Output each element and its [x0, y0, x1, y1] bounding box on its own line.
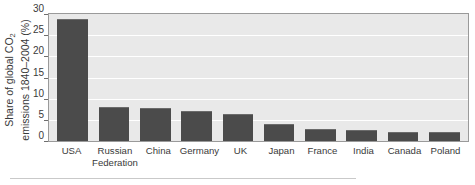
bar-slot — [217, 14, 258, 141]
y-axis-tick-mark — [44, 56, 48, 57]
bar-slot — [382, 14, 423, 141]
y-axis-tick-label: 25 — [27, 25, 44, 35]
bar-slot — [135, 14, 176, 141]
bar-slot — [424, 14, 465, 141]
x-axis-tick-label-line: India — [343, 145, 384, 157]
x-axis-tick-label: UK — [220, 145, 261, 168]
y-axis-tick-label: 15 — [27, 68, 44, 78]
x-axis-tick-label-line: France — [302, 145, 343, 157]
x-axis-tick-label: Poland — [425, 145, 466, 168]
bar — [264, 124, 295, 141]
x-axis-tick-label-line: Poland — [425, 145, 466, 157]
bar — [181, 111, 212, 141]
bar-slot — [93, 14, 134, 141]
bar — [140, 108, 171, 141]
bar — [305, 129, 336, 141]
bar — [99, 107, 130, 141]
subscript-two: 2 — [7, 33, 16, 37]
x-axis-tick-label-line: UK — [220, 145, 261, 157]
x-axis-tick-label-line: Russian — [92, 145, 138, 157]
plot-area — [48, 13, 469, 142]
y-axis-tick-mark — [44, 35, 48, 36]
bar — [388, 132, 419, 141]
bar-slot — [176, 14, 217, 141]
x-axis-tick-label-line: China — [138, 145, 179, 157]
bar-slot — [300, 14, 341, 141]
y-axis-tick-mark — [44, 141, 48, 142]
x-axis-tick-label: Japan — [261, 145, 302, 168]
x-axis-tick-label: India — [343, 145, 384, 168]
bar-slot — [52, 14, 93, 141]
y-axis-tick-label: 10 — [27, 89, 44, 99]
x-axis-tick-label-line: Germany — [179, 145, 220, 157]
x-axis-tick-label-line: Canada — [384, 145, 425, 157]
bar — [57, 19, 88, 141]
y-axis-tick-mark — [44, 120, 48, 121]
y-axis-tick-labels: 051015202530 — [27, 8, 44, 142]
y-axis-title-line-1: Share of global CO2 — [3, 33, 19, 126]
y-axis-tick-mark — [44, 99, 48, 100]
bar — [346, 130, 377, 141]
bar — [429, 132, 460, 141]
y-axis-tick-label: 5 — [27, 110, 44, 120]
bar-chart-figure: Share of global CO2 emissions 1840–2004 … — [0, 0, 475, 185]
x-axis-tick-label: China — [138, 145, 179, 168]
bar — [223, 114, 254, 141]
y-axis-tick-label: 30 — [27, 4, 44, 14]
x-axis-tick-label: France — [302, 145, 343, 168]
footer-divider — [10, 178, 356, 179]
y-axis-tick-label: 20 — [27, 46, 44, 56]
x-axis-tick-label-line: USA — [51, 145, 92, 157]
y-axis-tick-mark — [44, 14, 48, 15]
x-axis-tick-label: Germany — [179, 145, 220, 168]
x-axis-tick-label-line: Japan — [261, 145, 302, 157]
bar-slot — [341, 14, 382, 141]
x-axis-tick-label-line: Federation — [92, 157, 138, 169]
bar-slot — [258, 14, 299, 141]
x-axis-tick-label: USA — [51, 145, 92, 168]
y-axis-tick-mark — [44, 78, 48, 79]
bar-series — [49, 14, 468, 141]
x-axis-tick-label: RussianFederation — [92, 145, 138, 168]
y-axis-title-text-part: Share of global CO — [3, 37, 15, 126]
x-axis-tick-label: Canada — [384, 145, 425, 168]
x-axis-tick-labels: USARussianFederationChinaGermanyUKJapanF… — [48, 145, 469, 168]
y-axis-tick-label: 0 — [27, 131, 44, 141]
